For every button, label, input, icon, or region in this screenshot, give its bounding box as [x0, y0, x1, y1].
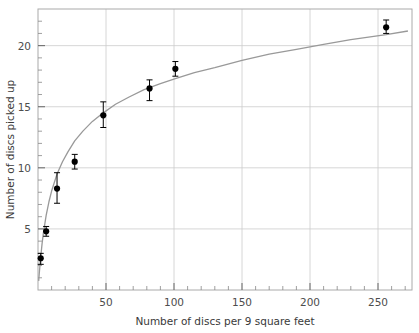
- data-point-marker[interactable]: [146, 85, 152, 91]
- data-point-marker[interactable]: [100, 112, 106, 118]
- y-tick-label: 15: [18, 101, 31, 113]
- y-axis-title: Number of discs picked up: [4, 79, 16, 219]
- chart-container: 501001502002505101520Number of discs per…: [0, 0, 419, 333]
- data-point-marker[interactable]: [43, 228, 49, 234]
- y-tick-label: 20: [18, 40, 31, 52]
- y-tick-label: 5: [24, 223, 31, 235]
- data-point-marker[interactable]: [172, 66, 178, 72]
- x-tick-label: 150: [232, 296, 252, 308]
- x-tick-label: 50: [99, 296, 112, 308]
- x-axis-title: Number of discs per 9 square feet: [135, 315, 314, 327]
- x-tick-label: 100: [164, 296, 184, 308]
- x-tick-label: 200: [300, 296, 320, 308]
- data-point-marker[interactable]: [383, 24, 389, 30]
- scatter-plot-figure: 501001502002505101520Number of discs per…: [0, 0, 419, 333]
- data-point-marker[interactable]: [54, 185, 60, 191]
- data-point-marker[interactable]: [38, 255, 44, 261]
- plot-background: [38, 9, 412, 290]
- x-tick-label: 250: [368, 296, 388, 308]
- data-point-marker[interactable]: [72, 159, 78, 165]
- y-tick-label: 10: [18, 162, 31, 174]
